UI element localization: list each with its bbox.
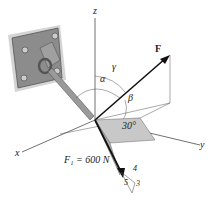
x-axis-label: x <box>15 148 19 158</box>
bolt-icon <box>21 75 27 81</box>
z-axis-label: z <box>93 6 97 16</box>
bolt-icon <box>52 33 58 39</box>
bolt-icon <box>22 47 28 53</box>
beta-label: β <box>128 93 133 103</box>
alpha-arc <box>76 89 120 98</box>
force-F1-label: F₁ = 600 N <box>64 155 110 165</box>
force-F-label: F <box>155 44 161 54</box>
arrowhead-icon <box>117 168 125 178</box>
y-axis-label: y <box>200 140 204 150</box>
eye-rod <box>48 68 94 120</box>
slope-side-4: 4 <box>133 165 137 173</box>
slope-hypotenuse-5: 5 <box>124 179 128 187</box>
x-axis <box>22 120 95 152</box>
slope-side-3: 3 <box>136 180 140 188</box>
diagram-canvas <box>0 0 214 203</box>
gamma-label: γ <box>112 62 116 72</box>
inclination-angle-label: 30° <box>122 121 136 131</box>
alpha-label: α <box>100 74 105 84</box>
slope-triangle <box>132 183 135 193</box>
force-F-vector <box>95 58 166 120</box>
projection-line <box>95 103 170 120</box>
projection-line <box>140 103 170 118</box>
